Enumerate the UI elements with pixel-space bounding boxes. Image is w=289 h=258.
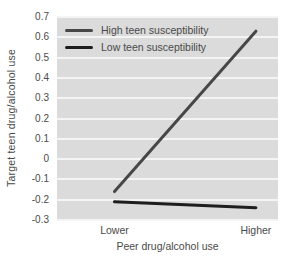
x-axis-title: Peer drug/alcohol use	[116, 240, 218, 252]
x-tick-label-lower: Lower	[100, 224, 129, 236]
interaction-line-chart: Target teen drug/alcohol use 0.70.60.50.…	[0, 0, 289, 258]
series-line	[115, 202, 256, 208]
line-series-svg	[0, 0, 289, 258]
series-line	[115, 31, 256, 191]
x-tick-label-higher: Higher	[240, 224, 271, 236]
